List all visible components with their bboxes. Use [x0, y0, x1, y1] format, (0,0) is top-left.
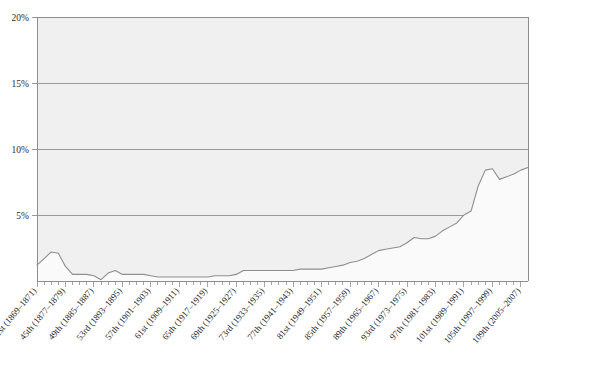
- y-axis-tick-label: 5%: [16, 211, 29, 221]
- y-axis-tick-label: 15%: [12, 79, 30, 89]
- chart-container: 5%10%15%20% 41st (1869–1871)45th (1877–1…: [0, 0, 602, 368]
- y-axis-tick-label: 10%: [12, 145, 30, 155]
- y-axis-tick-label: 20%: [12, 13, 30, 23]
- percentage-line-chart: 5%10%15%20% 41st (1869–1871)45th (1877–1…: [0, 0, 602, 368]
